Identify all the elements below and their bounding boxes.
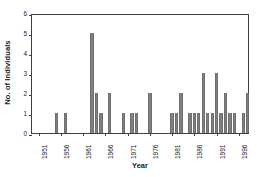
bar: [95, 93, 98, 133]
bar-series: [32, 15, 248, 133]
bar: [224, 93, 227, 133]
bar: [122, 113, 125, 133]
bar: [211, 113, 214, 133]
y-axis-title: No. of Individuals: [0, 0, 14, 145]
x-axis-tick-label: 1986: [196, 145, 203, 159]
bar: [99, 113, 102, 133]
x-axis-title: Year: [31, 161, 249, 170]
bar: [179, 93, 182, 133]
x-axis-tick-labels: 1951195619611966197119761981198619911996: [31, 135, 249, 161]
x-axis-tick-label: 1961: [85, 145, 92, 159]
y-axis-tick-mark: [29, 15, 32, 16]
y-axis-tick-label: 1: [23, 111, 27, 118]
y-axis-tick-label: 6: [23, 11, 27, 18]
x-axis-tick-label: 1991: [219, 145, 226, 159]
y-axis-tick-label: 3: [23, 71, 27, 78]
y-axis-tick-label: 0: [23, 131, 27, 138]
bar: [228, 113, 231, 133]
x-axis-tick-label: 1981: [174, 145, 181, 159]
bar: [242, 113, 245, 133]
bar: [90, 33, 93, 133]
y-axis-tick-mark: [29, 115, 32, 116]
bar: [130, 113, 133, 133]
bar: [55, 113, 58, 133]
x-axis-tick-label: 1971: [130, 145, 137, 159]
x-axis-tick-label: 1996: [241, 145, 248, 159]
y-axis-tick-label: 4: [23, 51, 27, 58]
y-axis-tick-mark: [29, 55, 32, 56]
y-axis-tick-mark: [29, 75, 32, 76]
bar-chart-figure: No. of Individuals 0123456 1951195619611…: [0, 0, 257, 177]
bar: [197, 113, 200, 133]
y-axis-title-text: No. of Individuals: [3, 40, 12, 104]
bar: [246, 93, 249, 133]
y-axis-tick-labels: 0123456: [13, 14, 29, 134]
bar: [206, 113, 209, 133]
bar: [219, 113, 222, 133]
bar: [148, 93, 151, 133]
y-axis-tick-label: 5: [23, 31, 27, 38]
bar: [233, 113, 236, 133]
bar: [64, 113, 67, 133]
bar: [188, 113, 191, 133]
x-axis-tick-label: 1976: [152, 145, 159, 159]
bar: [215, 73, 218, 133]
bar: [193, 113, 196, 133]
bar: [135, 113, 138, 133]
y-axis-tick-mark: [29, 35, 32, 36]
bar: [170, 113, 173, 133]
x-axis-tick-label: 1951: [41, 145, 48, 159]
x-axis-tick-label: 1966: [107, 145, 114, 159]
plot-area: [31, 14, 249, 134]
x-axis-tick-label: 1956: [63, 145, 70, 159]
bar: [175, 113, 178, 133]
bar: [202, 73, 205, 133]
bar: [108, 93, 111, 133]
y-axis-tick-label: 2: [23, 91, 27, 98]
y-axis-tick-mark: [29, 95, 32, 96]
